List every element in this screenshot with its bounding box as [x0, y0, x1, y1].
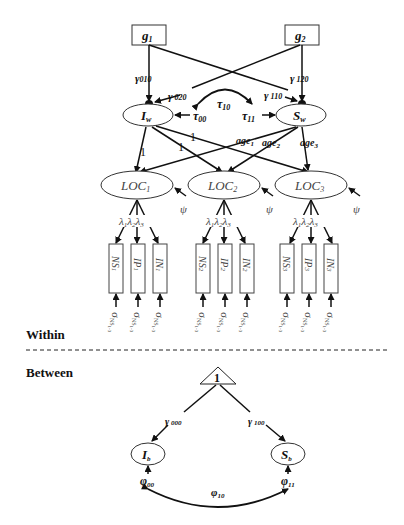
svg-text:σNS1-3: σNS1-3: [300, 312, 315, 333]
latent-LOC2: LOC2: [188, 171, 260, 199]
variance-label-phi00: φ00: [140, 474, 155, 489]
path-label-g110: γ 110: [264, 89, 282, 101]
latent-LOC1: LOC1: [101, 171, 173, 199]
svg-text:σNS1-3: σNS1-3: [194, 312, 209, 333]
indicator-error-labels: σNS1-3 σNS1-3 σNS1-3 σNS1-3 σNS1-3 σNS1-…: [107, 312, 337, 333]
sem-diagram: g1 g2 γ010 γ 120 γ 020 γ 110 τ10 Iw Sw τ…: [0, 0, 404, 525]
slope-loading-age3: age3: [300, 137, 318, 150]
intercept-loading-1: 1: [140, 145, 146, 159]
variance-label-tau00: τ00: [193, 109, 206, 124]
intercept-loading-3: 1: [190, 130, 196, 144]
svg-text:σNS1-3: σNS1-3: [216, 312, 231, 333]
covariance-label-tau10: τ10: [217, 97, 230, 112]
svg-text:σNS1-3: σNS1-3: [278, 312, 293, 333]
slope-loading-age1: age1: [236, 135, 254, 148]
latent-Sb: Sb: [271, 443, 305, 465]
path-label-g120: γ 120: [290, 72, 309, 84]
indicator-group-3: NS3 IP3 IN3: [280, 244, 338, 293]
variance-label-phi11: φ11: [281, 474, 295, 489]
path-label-g020: γ 020: [168, 90, 187, 102]
svg-text:σNS1-3: σNS1-3: [151, 312, 166, 333]
svg-text:LOC1: LOC1: [120, 178, 150, 194]
svg-text:σNS1-3: σNS1-3: [238, 312, 253, 333]
svg-text:σNS1-3: σNS1-3: [322, 312, 337, 333]
growth-loadings: [136, 126, 308, 172]
indicator-group-2: NS2 IP2 IN2: [196, 244, 254, 293]
svg-text:1: 1: [214, 371, 220, 385]
constant-triangle: 1: [200, 367, 236, 385]
predictor-g1: g1: [132, 25, 166, 45]
variance-label-tau11: τ11: [242, 109, 255, 124]
path-label-g100: γ 100: [248, 416, 265, 427]
latent-Iw: Iw: [123, 104, 173, 126]
svg-text:LOC3: LOC3: [294, 178, 324, 194]
path-label-g000: γ 000: [165, 416, 182, 427]
indicator-error-arrows: [116, 294, 331, 307]
covariance-label-phi10: φ10: [211, 486, 225, 500]
residual-psi-2: ψ: [266, 203, 273, 215]
predictor-g2: g2: [285, 25, 319, 45]
svg-text:σNS1-3: σNS1-3: [107, 312, 122, 333]
intercept-loading-2: 1: [178, 140, 184, 154]
residual-psi-1: ψ: [180, 203, 187, 215]
svg-text:σNS1-3: σNS1-3: [129, 312, 144, 333]
latent-Sw: Sw: [276, 104, 326, 126]
svg-text:LOC2: LOC2: [207, 178, 237, 194]
indicator-group-1: NS1 IP1 IN1: [109, 244, 167, 293]
residual-psi-3: ψ: [353, 203, 360, 215]
latent-LOC3: LOC3: [275, 171, 347, 199]
latent-Ib: Ib: [131, 443, 165, 465]
covariance-arc-tau10: [198, 90, 252, 105]
regression-paths-between: [152, 385, 285, 441]
